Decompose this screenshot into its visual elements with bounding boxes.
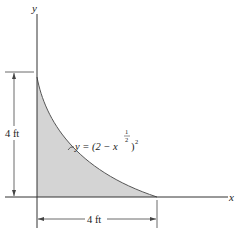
arrow-up-icon xyxy=(12,73,16,79)
y-axis-label: y xyxy=(31,2,37,14)
equation-exponent-num: 1 xyxy=(125,128,128,135)
shaded-area xyxy=(37,77,157,197)
area-diagram: y x 4 ft 4 ft y = (2 − x 1 2 ) 2 xyxy=(0,0,237,237)
arrow-down-icon xyxy=(12,190,16,196)
arrow-left-icon xyxy=(38,217,44,221)
equation-label: y = (2 − x xyxy=(74,141,118,153)
equation-outer-exponent: 2 xyxy=(135,138,138,145)
x-axis-label: x xyxy=(228,191,234,203)
height-dim-label: 4 ft xyxy=(5,128,19,139)
equation-exponent-den: 2 xyxy=(125,136,128,143)
arrow-right-icon xyxy=(150,217,156,221)
width-dim-label: 4 ft xyxy=(87,214,101,225)
